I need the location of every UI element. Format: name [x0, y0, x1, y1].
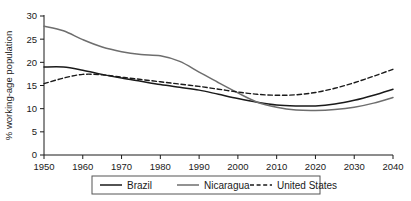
legend-label-brazil: Brazil: [127, 180, 152, 191]
y-axis-title: % working-age population: [3, 31, 14, 140]
x-tick-label: 2020: [305, 161, 326, 172]
legend-label-nicaragua: Nicaragua: [204, 180, 250, 191]
x-tick-label: 2010: [266, 161, 287, 172]
chart-canvas: 051015202530 195019601970198019902000201…: [0, 0, 411, 201]
x-axis: 1950196019701980199020002010202020302040: [33, 155, 403, 172]
x-tick-label: 1980: [150, 161, 171, 172]
x-tick-label: 2040: [382, 161, 403, 172]
y-tick-label: 0: [32, 149, 37, 160]
series-line-nicaragua: [44, 26, 393, 110]
legend-item-group: BrazilNicaraguaUnited States: [100, 180, 337, 191]
y-tick-label: 25: [26, 34, 37, 45]
legend: BrazilNicaraguaUnited States: [92, 176, 337, 194]
y-tick-label: 15: [26, 80, 37, 91]
y-tick-label: 5: [32, 126, 37, 137]
x-tick-label: 2030: [344, 161, 365, 172]
y-tick-label: 10: [26, 103, 37, 114]
x-tick-group: [44, 155, 393, 159]
x-tick-label: 1950: [33, 161, 54, 172]
legend-label-united-states: United States: [277, 180, 337, 191]
x-tick-label: 2000: [227, 161, 248, 172]
y-tick-label: 20: [26, 57, 37, 68]
y-tick-label-group: 051015202530: [26, 10, 37, 160]
x-tick-label: 1970: [111, 161, 132, 172]
y-tick-label: 30: [26, 10, 37, 21]
line-chart: 051015202530 195019601970198019902000201…: [0, 0, 411, 201]
x-tick-label: 1960: [72, 161, 93, 172]
x-tick-label: 1990: [189, 161, 210, 172]
y-axis: 051015202530: [26, 10, 44, 160]
series-group: [44, 26, 393, 110]
y-tick-group: [40, 16, 44, 155]
x-tick-label-group: 1950196019701980199020002010202020302040: [33, 161, 403, 172]
